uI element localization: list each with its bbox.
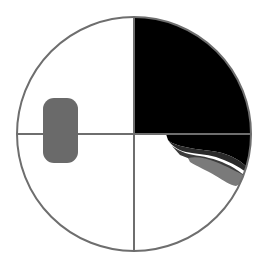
gray-rounded-marker — [43, 98, 78, 163]
quadrant-circle-diagram — [0, 0, 267, 264]
